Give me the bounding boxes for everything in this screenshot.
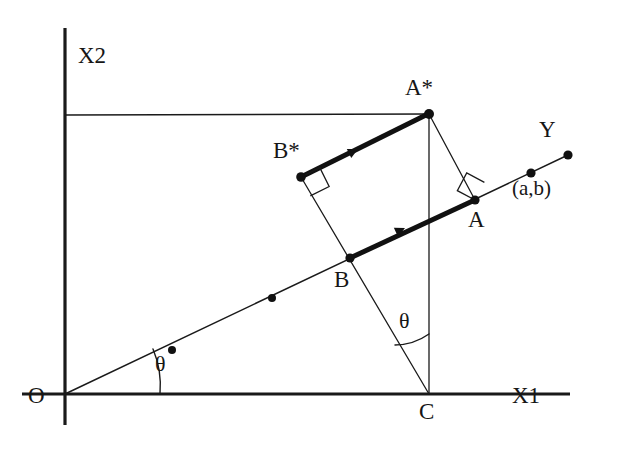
line-b-star-to-c	[301, 177, 429, 394]
point-label-y: Y	[539, 118, 556, 141]
dot-ray-1	[168, 346, 176, 354]
angle-label-theta-c: θ	[399, 310, 410, 332]
point-label-b: B	[334, 268, 349, 291]
vector-segments	[301, 113, 477, 258]
origin-label-o: O	[28, 384, 45, 407]
side-a-star-to-a	[429, 114, 475, 200]
dot-point-y	[563, 150, 572, 159]
dot-point-a-star	[424, 109, 434, 119]
dot-ray-2	[268, 294, 276, 302]
dot-point-b	[345, 253, 354, 262]
vector-arrowheads	[347, 145, 407, 237]
axes-group	[22, 28, 570, 425]
dot-point-a	[470, 195, 479, 204]
point-label-a-star: A*	[405, 76, 433, 99]
right-angle-markers	[301, 168, 484, 200]
angle-label-theta-origin: θ	[155, 353, 166, 375]
dot-point-b-star	[296, 172, 306, 182]
vector-b-to-a	[350, 199, 477, 258]
data-point-dots	[168, 109, 573, 354]
point-label-c: C	[419, 400, 434, 423]
coordinate-label-ab: (a,b)	[512, 178, 551, 199]
axis-label-x1: X1	[512, 384, 540, 407]
diagram-canvas: X2 X1 O A* B* A B C Y (a,b) θ θ	[0, 0, 624, 455]
ray-origin-to-y	[65, 155, 568, 394]
gridline-top-to-a-star	[65, 114, 429, 115]
construction-lines	[65, 114, 475, 394]
point-label-b-star: B*	[273, 139, 300, 162]
axis-label-x2: X2	[78, 44, 106, 67]
angle-arc-c	[395, 334, 429, 345]
point-label-a: A	[468, 208, 485, 231]
angle-arcs	[153, 334, 429, 394]
